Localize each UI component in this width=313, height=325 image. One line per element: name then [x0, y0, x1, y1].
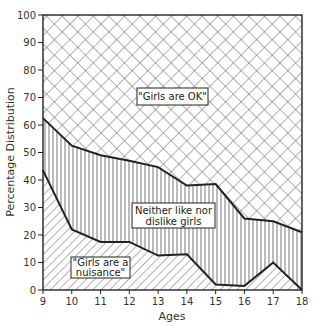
x-tick-label: 15: [209, 296, 222, 307]
x-axis-ticks: 9101112131415161718: [40, 290, 309, 307]
svg-text:"Girls are OK": "Girls are OK": [138, 91, 207, 102]
y-axis-ticks: 0102030405060708090100: [17, 10, 43, 296]
y-tick-label: 40: [23, 175, 36, 186]
x-tick-label: 13: [152, 296, 165, 307]
y-tick-label: 0: [30, 285, 36, 296]
x-tick-label: 9: [40, 296, 46, 307]
x-tick-label: 12: [123, 296, 136, 307]
chart: 0102030405060708090100 91011121314151617…: [0, 0, 313, 325]
x-axis-title: Ages: [158, 310, 185, 323]
x-tick-label: 11: [94, 296, 107, 307]
label-neither: Neither like nor dislike girls: [132, 203, 215, 228]
y-tick-label: 100: [17, 10, 36, 21]
svg-text:Neither like nor: Neither like nor: [135, 205, 213, 216]
x-tick-label: 14: [181, 296, 194, 307]
svg-text:nuisance": nuisance": [76, 267, 125, 278]
y-tick-label: 70: [23, 92, 36, 103]
y-tick-label: 60: [23, 120, 36, 131]
x-tick-label: 16: [238, 296, 251, 307]
y-tick-label: 80: [23, 65, 36, 76]
label-girls-ok: "Girls are OK": [137, 88, 208, 105]
y-tick-label: 50: [23, 147, 36, 158]
x-tick-label: 17: [267, 296, 280, 307]
y-tick-label: 10: [23, 257, 36, 268]
svg-text:dislike girls: dislike girls: [146, 216, 202, 227]
y-tick-label: 20: [23, 230, 36, 241]
label-girls-nuisance: "Girls are a nuisance": [71, 257, 130, 278]
y-tick-label: 30: [23, 202, 36, 213]
y-axis-title: Percentage Distribution: [4, 87, 17, 217]
x-tick-label: 10: [65, 296, 78, 307]
y-tick-label: 90: [23, 37, 36, 48]
plot-areas: [43, 15, 302, 290]
x-tick-label: 18: [296, 296, 309, 307]
